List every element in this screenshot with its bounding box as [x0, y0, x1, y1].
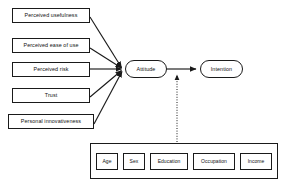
- moderator-label: Occupation: [201, 158, 227, 164]
- edge-trust-to-attitude: [90, 71, 122, 98]
- construct-label: Trust: [45, 93, 57, 99]
- construct-box-attitude[interactable]: Attitude: [125, 60, 167, 78]
- moderator-box-income[interactable]: Income: [240, 153, 272, 170]
- construct-box-perceived-ease-of-use[interactable]: Perceived ease of use: [12, 38, 90, 53]
- construct-box-perceived-usefulness[interactable]: Perceived usefulness: [12, 8, 90, 23]
- construct-label: Intention: [211, 66, 232, 72]
- construct-label: Personal innovativeness: [21, 119, 81, 125]
- moderator-label: Age: [102, 158, 111, 164]
- moderator-box-occupation[interactable]: Occupation: [193, 153, 235, 170]
- construct-label: Perceived usefulness: [25, 13, 78, 19]
- edge-personal-innovativeness-to-attitude: [94, 72, 122, 125]
- construct-box-personal-innovativeness[interactable]: Personal innovativeness: [8, 114, 94, 129]
- moderator-box-age[interactable]: Age: [96, 153, 118, 170]
- construct-label: Attitude: [137, 66, 156, 72]
- construct-box-trust[interactable]: Trust: [12, 88, 90, 103]
- edge-perceived-usefulness-to-attitude: [90, 17, 122, 68]
- construct-label: Perceived ease of use: [23, 43, 78, 49]
- moderator-group-demographics: Age Sex Education Occupation Income: [90, 143, 278, 179]
- moderator-label: Education: [158, 158, 181, 164]
- research-model-diagram: Perceived usefulness Perceived ease of u…: [0, 0, 288, 187]
- construct-box-intention[interactable]: Intention: [200, 60, 243, 78]
- moderator-box-education[interactable]: Education: [150, 153, 188, 170]
- edge-perceived-ease-of-use-to-attitude: [90, 48, 122, 68]
- construct-label: Perceived risk: [34, 67, 69, 73]
- moderator-box-sex[interactable]: Sex: [123, 153, 145, 170]
- moderator-label: Income: [248, 158, 265, 164]
- moderator-label: Sex: [130, 158, 139, 164]
- construct-box-perceived-risk[interactable]: Perceived risk: [12, 62, 90, 77]
